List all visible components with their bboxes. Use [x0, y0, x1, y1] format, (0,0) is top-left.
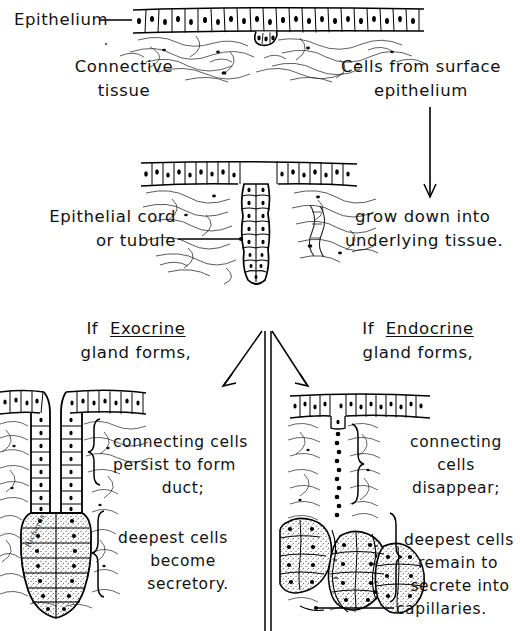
capillaries — [300, 530, 378, 612]
note-endocrine-a-line3: disappear; — [396, 478, 516, 498]
note-exocrine-b-line1: deepest cells — [118, 528, 228, 548]
heading-exocrine-prefix: If — [86, 319, 98, 338]
note-endocrine-b-line3: secrete into — [400, 576, 520, 596]
label-epithelial-cord-line1: Epithelial cord — [20, 206, 176, 228]
endocrine-connective-tissue — [288, 423, 406, 612]
mid-connective-tissue — [143, 191, 378, 284]
branch-arrow-right — [272, 331, 308, 386]
note-exocrine-b-line3: secretory. — [118, 574, 258, 594]
endocrine-epithelium-sheet — [290, 394, 430, 429]
top-epithelium-sheet — [133, 8, 424, 46]
epithelial-cord — [242, 184, 270, 284]
exocrine-brace-lower — [92, 511, 104, 597]
note-endocrine-a-line2: cells — [396, 455, 516, 475]
note-exocrine-a-line2: persist to form — [113, 455, 236, 475]
note-exocrine-b-line2: become — [113, 551, 253, 571]
exocrine-duct-cells — [31, 426, 82, 504]
exocrine-brace-upper — [88, 419, 100, 485]
label-grow-down-line1: grow down into — [355, 206, 491, 228]
label-grow-down-line2: underlying tissue. — [345, 230, 503, 252]
label-cells-from-surface-line2: epithelium — [330, 80, 512, 102]
tubule-leader-line — [178, 237, 243, 241]
label-epithelium: Epithelium — [14, 9, 108, 31]
label-epithelial-cord-line2: or tubule — [20, 230, 176, 252]
label-connective-tissue-line1: Connective — [60, 56, 188, 78]
capillary-leader-line — [314, 606, 394, 610]
note-exocrine-a-line3: duct; — [113, 478, 253, 498]
vertical-divider — [265, 331, 271, 631]
figure-canvas: Epithelium Connective tissue Cells from … — [0, 0, 520, 631]
note-endocrine-a-line1: connecting — [396, 432, 516, 452]
label-connective-tissue-line2: tissue — [60, 80, 188, 102]
exocrine-duct — [31, 392, 82, 517]
label-cells-from-surface-line1: Cells from surface — [330, 56, 512, 78]
heading-endocrine-keyword: Endocrine — [386, 319, 474, 338]
note-exocrine-a-line1: connecting cells — [113, 432, 248, 452]
exocrine-secretory-nuclei — [35, 519, 77, 611]
note-endocrine-b-line1: deepest cells — [404, 530, 514, 550]
mid-epithelium-sheet — [141, 162, 357, 187]
endocrine-brace-upper — [352, 424, 364, 504]
cells-down-arrow — [424, 107, 436, 197]
heading-endocrine: If Endocrine — [318, 318, 518, 340]
endocrine-nuclei — [287, 527, 413, 602]
heading-endocrine-prefix: If — [362, 319, 374, 338]
heading-endocrine-line2: gland forms, — [318, 342, 518, 364]
heading-exocrine-keyword: Exocrine — [110, 319, 186, 338]
note-endocrine-b-line2: remain to — [400, 553, 516, 573]
heading-exocrine-line2: gland forms, — [36, 342, 236, 364]
artist-signature: Richards — [24, 513, 47, 548]
cord-cells — [241, 184, 270, 282]
note-endocrine-b-line4: capillaries. — [396, 599, 487, 619]
exocrine-epithelium-sheet — [0, 390, 146, 414]
heading-exocrine: If Exocrine — [36, 318, 236, 340]
endocrine-dotted-cord — [335, 432, 342, 518]
